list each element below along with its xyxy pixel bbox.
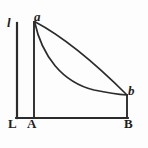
label-apex-a: a <box>34 10 41 23</box>
label-base-B: B <box>124 117 133 130</box>
lower-curve-a-to-b <box>35 22 128 96</box>
label-base-L: L <box>8 117 17 130</box>
label-left-axis-l: l <box>7 16 11 29</box>
figure-container: l a b L A B <box>0 0 148 148</box>
label-base-A: A <box>27 117 36 130</box>
label-point-b: b <box>128 84 135 97</box>
upper-curve-a-to-b <box>35 22 128 96</box>
